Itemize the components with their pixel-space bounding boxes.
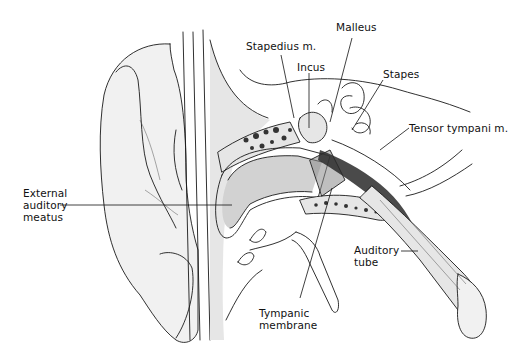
ear-anatomy-illustration	[0, 0, 524, 360]
label-tympanic-membrane: Tympanic membrane	[259, 307, 317, 331]
label-incus: Incus	[297, 61, 325, 73]
label-auditory-tube: Auditory tube	[354, 244, 399, 268]
label-stapedius-muscle: Stapedius m.	[246, 40, 316, 52]
label-malleus: Malleus	[336, 21, 377, 33]
label-stapes: Stapes	[383, 68, 419, 80]
label-tensor-tympani-muscle: Tensor tympani m.	[409, 122, 508, 134]
auricle	[100, 44, 198, 343]
label-external-auditory-meatus: External auditory meatus	[23, 187, 68, 223]
